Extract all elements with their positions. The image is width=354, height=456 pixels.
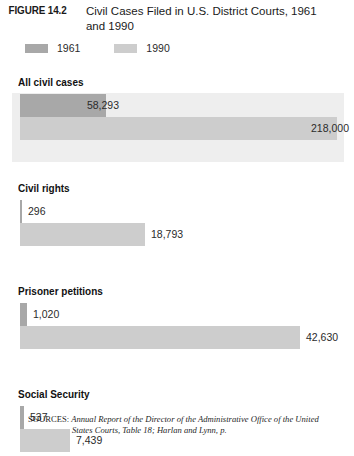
sources-continuation: States Courts, Table 18; Harlan and Lynn… [28, 425, 227, 435]
bar-row-1961: 1,020 [20, 303, 344, 326]
bar-value-1990-prisoner-petitions: 42,630 [300, 326, 338, 349]
bar-1990-prisoner-petitions [20, 326, 300, 349]
figure-header: FIGURE 14.2 Civil Cases Filed in U.S. Di… [0, 0, 344, 34]
figure-title: Civil Cases Filed in U.S. District Court… [71, 4, 331, 34]
bar-value-1990-civil-rights: 18,793 [145, 223, 183, 246]
bar-row-1961: 58,293 [20, 94, 344, 117]
group-label-prisoner-petitions: Prisoner petitions [0, 285, 327, 298]
group-label-social-security: Social Security [0, 388, 327, 401]
group-label-civil-rights: Civil rights [0, 182, 327, 195]
chart-plot-area: All civil cases 58,293 218,000 Civil rig… [0, 76, 344, 456]
bar-group-prisoner-petitions: Prisoner petitions 1,020 42,630 [0, 265, 344, 368]
bar-row-1990: 42,630 [20, 326, 344, 349]
bar-1990-civil-rights [20, 223, 145, 246]
legend-swatch-1961 [25, 44, 48, 53]
bar-group-social-security: Social Security 537 7,439 [0, 368, 344, 456]
legend-label-1990: 1990 [146, 42, 169, 54]
bar-group-civil-rights: Civil rights 296 18,793 [0, 162, 344, 265]
bars-civil-rights: 296 18,793 [0, 195, 344, 246]
sources-title: Annual Report of the Director of the Adm… [71, 414, 319, 424]
figure-number-label: FIGURE 14.2 [0, 4, 67, 17]
bars-prisoner-petitions: 1,020 42,630 [0, 298, 344, 349]
bar-row-1990: 18,793 [20, 223, 344, 246]
sources-label: SOURCES: [28, 414, 69, 424]
bars-all-civil-cases: 58,293 218,000 [0, 89, 344, 140]
bar-1961-prisoner-petitions [20, 303, 27, 326]
group-label-all-civil-cases: All civil cases [0, 76, 327, 89]
legend-label-1961: 1961 [57, 42, 80, 54]
legend-entry-1961: 1961 [25, 42, 80, 54]
bar-value-1990-all-civil-cases: 218,000 [40, 117, 354, 140]
bar-value-1961-civil-rights: 296 [22, 200, 46, 223]
bar-row-1990: 218,000 [20, 117, 344, 140]
bar-row-1961: 296 [20, 200, 344, 223]
bar-value-1961-prisoner-petitions: 1,020 [27, 303, 59, 326]
sources-note: SOURCES: Annual Report of the Director o… [0, 414, 344, 436]
chart-legend: 1961 1990 [25, 42, 204, 54]
legend-swatch-1990 [114, 44, 137, 53]
bar-group-all-civil-cases: All civil cases 58,293 218,000 [0, 76, 344, 162]
bar-value-1961-all-civil-cases: 58,293 [40, 94, 126, 117]
legend-entry-1990: 1990 [114, 42, 169, 54]
